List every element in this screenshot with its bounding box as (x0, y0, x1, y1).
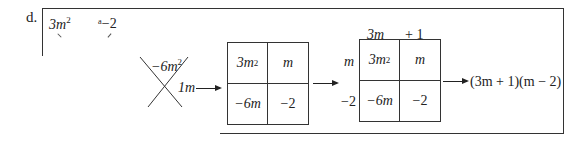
grid2-cell: 3m2 (360, 40, 400, 81)
frame-bottom-border (220, 133, 564, 134)
grid1-cell: 3m2 (228, 43, 268, 84)
term-3m-squared: 3m2 (49, 16, 71, 32)
factored-result: (3m + 1)(m − 2) (470, 75, 561, 89)
tick-mark (108, 33, 112, 37)
cross-top-term: −6m2 (151, 58, 182, 74)
cross-right-term: 1m (178, 81, 195, 95)
arrow-right-icon (196, 88, 220, 89)
frame-right-border (563, 8, 564, 133)
grid2-row-header: −2 (341, 95, 356, 109)
grid2-row-header: m (344, 55, 354, 69)
grid2-cell: −6m (360, 81, 400, 122)
grid2-cell: −2 (400, 81, 440, 122)
term-base: 3m (49, 17, 66, 32)
term-exp: 2 (66, 15, 71, 25)
grid1-cell: −2 (268, 84, 308, 125)
term-m-minus-2: ᵃ−2 (98, 17, 117, 31)
arrow-right-icon (313, 83, 337, 84)
arrow-right-icon (443, 81, 467, 82)
grid2-cell: m (400, 40, 440, 81)
area-grid-2: 3m2 m −6m −2 (359, 39, 441, 122)
problem-label: d. (26, 10, 37, 25)
frame-top-border (42, 8, 563, 9)
grid1-cell: −6m (228, 84, 268, 125)
tick-mark (57, 33, 61, 37)
cross-top-base: −6m (151, 59, 178, 74)
area-grid-1: 3m2 m −6m −2 (227, 42, 309, 125)
cross-top-exp: 2 (178, 57, 183, 67)
frame-left-border (42, 8, 43, 56)
grid1-cell: m (268, 43, 308, 84)
